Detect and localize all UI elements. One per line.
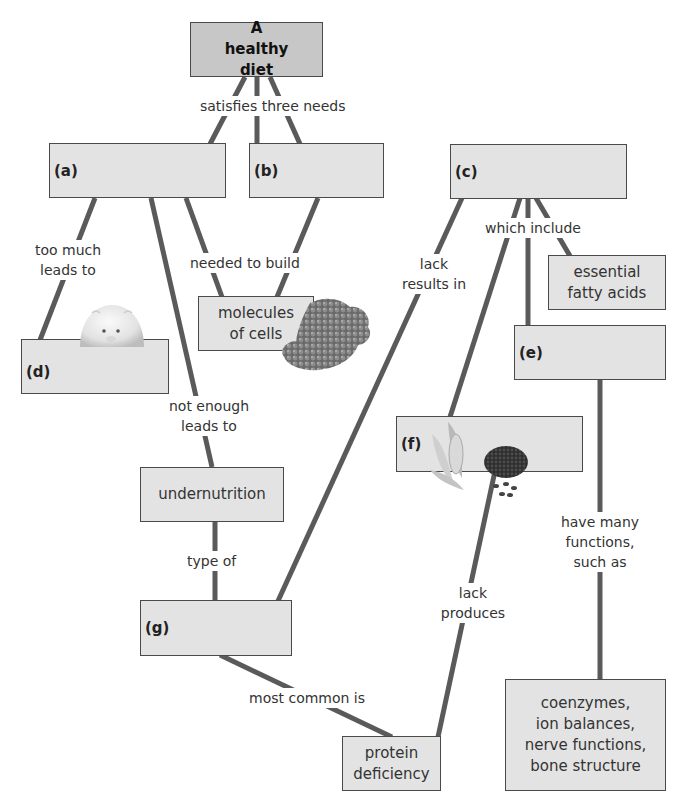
link-label-satisfies: satisfies three needs bbox=[198, 96, 348, 116]
link-label-lack-produces-line2: produces bbox=[438, 603, 508, 623]
protein-molecule-image-icon bbox=[280, 295, 375, 375]
link-label-lack-results-line1: lack bbox=[398, 254, 470, 274]
link-label-lack-results-in: lack results in bbox=[398, 254, 470, 294]
node-d-letter: (d) bbox=[22, 363, 50, 381]
node-f-letter: (f) bbox=[397, 435, 421, 453]
node-functions-examples: coenzymes, ion balances, nerve functions… bbox=[505, 679, 666, 791]
node-e-letter: (e) bbox=[515, 344, 543, 362]
link-label-needed-to-build: needed to build bbox=[188, 253, 302, 273]
link-label-not-enough: not enough leads to bbox=[163, 396, 255, 436]
node-functions-line3: nerve functions, bbox=[525, 735, 647, 756]
link-label-too-much-line1: too much bbox=[28, 240, 108, 260]
node-protein-line2: deficiency bbox=[353, 764, 429, 785]
node-undernutrition-label: undernutrition bbox=[158, 484, 266, 505]
seeds-image-icon bbox=[482, 444, 530, 500]
node-b-blank[interactable]: (b) bbox=[249, 143, 384, 198]
node-e-blank[interactable]: (e) bbox=[514, 325, 666, 380]
node-essential-fatty-acids: essential fatty acids bbox=[548, 255, 666, 310]
node-protein-deficiency: protein deficiency bbox=[342, 736, 441, 791]
link-label-not-enough-line1: not enough bbox=[163, 396, 255, 416]
node-undernutrition: undernutrition bbox=[140, 467, 284, 522]
node-protein-line1: protein bbox=[353, 743, 429, 764]
hamster-image-icon bbox=[78, 301, 146, 349]
node-functions-line1: coenzymes, bbox=[525, 693, 647, 714]
connector-b-molecules bbox=[277, 198, 318, 297]
node-g-letter: (g) bbox=[141, 619, 169, 637]
link-label-lack-results-line2: results in bbox=[398, 274, 470, 294]
node-fatty-acids-line1: essential bbox=[568, 262, 647, 283]
link-label-type-of: type of bbox=[185, 551, 238, 571]
node-functions-line4: bone structure bbox=[525, 756, 647, 777]
link-label-have-many-line2: functions, bbox=[555, 532, 645, 552]
node-fatty-acids-line2: fatty acids bbox=[568, 283, 647, 304]
node-a-letter: (a) bbox=[50, 162, 78, 180]
link-label-have-many-line1: have many bbox=[555, 512, 645, 532]
link-label-most-common: most common is bbox=[247, 688, 367, 708]
link-label-not-enough-line2: leads to bbox=[163, 416, 255, 436]
node-functions-line2: ion balances, bbox=[525, 714, 647, 735]
link-label-too-much: too much leads to bbox=[28, 240, 108, 280]
link-label-which-include: which include bbox=[483, 218, 583, 238]
node-b-letter: (b) bbox=[250, 162, 278, 180]
node-c-letter: (c) bbox=[451, 163, 478, 181]
node-c-blank[interactable]: (c) bbox=[450, 144, 627, 199]
link-label-have-many-line3: such as bbox=[555, 552, 645, 572]
connector-a-molecules bbox=[186, 198, 222, 297]
corn-image-icon bbox=[428, 420, 478, 492]
node-a-blank[interactable]: (a) bbox=[49, 143, 226, 198]
link-label-have-many-functions: have many functions, such as bbox=[555, 512, 645, 572]
link-label-lack-produces-line1: lack bbox=[438, 583, 508, 603]
link-label-lack-produces: lack produces bbox=[438, 583, 508, 623]
node-g-blank[interactable]: (g) bbox=[140, 600, 292, 656]
node-root-label: A healthy diet bbox=[217, 18, 297, 81]
link-label-too-much-line2: leads to bbox=[28, 260, 108, 280]
node-root-healthy-diet: A healthy diet bbox=[190, 22, 323, 77]
